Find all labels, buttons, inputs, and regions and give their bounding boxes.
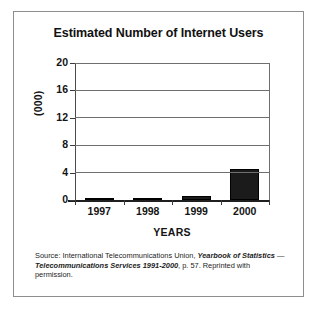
- bar-2000: [230, 169, 259, 201]
- gridline-y-16: [75, 90, 269, 91]
- x-tick-label-2000: 2000: [221, 205, 270, 217]
- source-prefix: Source: International Telecommunications…: [35, 251, 198, 260]
- bar-1998: [133, 198, 162, 200]
- gridline-y-8: [75, 145, 269, 146]
- y-tick-label-16: 16: [46, 84, 68, 95]
- source-title-1: Yearbook of Statistics: [198, 251, 275, 260]
- y-tick-mark-16: [70, 90, 75, 91]
- y-tick-mark-20: [70, 63, 75, 64]
- y-tick-label-20: 20: [46, 57, 68, 68]
- x-tick-label-1997: 1997: [75, 205, 124, 217]
- gridline-y-12: [75, 117, 269, 118]
- plot-area: [75, 63, 269, 200]
- y-tick-label-8: 8: [46, 139, 68, 150]
- gridline-y-20: [75, 63, 269, 64]
- y-tick-mark-8: [70, 145, 75, 146]
- x-tick-mark-end: [269, 200, 270, 205]
- x-axis-spine: [68, 200, 270, 202]
- bar-1997: [85, 198, 114, 200]
- y-tick-mark-4: [70, 173, 75, 174]
- x-tick-label-1999: 1999: [172, 205, 221, 217]
- figure-frame: Estimated Number of Internet Users (000)…: [13, 11, 304, 297]
- y-tick-label-12: 12: [46, 112, 68, 123]
- source-note: Source: International Telecommunications…: [35, 251, 289, 280]
- y-tick-mark-12: [70, 118, 75, 119]
- source-title-2: Telecommunications Services 1991-2000: [35, 261, 178, 270]
- gridline-y-4: [75, 172, 269, 173]
- plot-right-spine: [269, 63, 270, 201]
- y-tick-label-4: 4: [46, 167, 68, 178]
- x-tick-label-1998: 1998: [124, 205, 173, 217]
- source-separator: —: [275, 251, 284, 260]
- bar-1999: [182, 196, 211, 200]
- y-tick-label-0: 0: [46, 194, 68, 205]
- x-axis-label: YEARS: [75, 226, 269, 238]
